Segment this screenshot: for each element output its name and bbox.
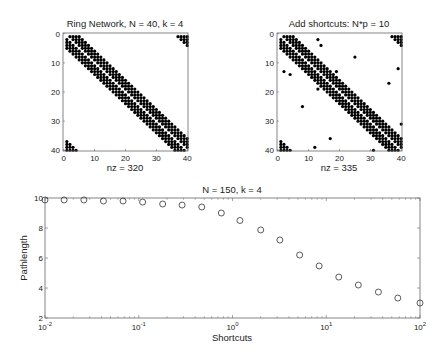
pathlength-scatter-plot: N = 150, k = 4 10-210-1100101102246810 S… xyxy=(18,184,427,343)
nonzero-dot xyxy=(115,73,118,76)
nonzero-dot xyxy=(68,35,71,38)
nonzero-dot xyxy=(375,120,378,123)
nonzero-dot xyxy=(127,102,130,105)
nonzero-dot xyxy=(289,35,292,38)
nonzero-dot xyxy=(378,117,381,120)
nonzero-dot xyxy=(335,85,338,88)
shortcut-dot xyxy=(289,73,292,76)
nonzero-dot xyxy=(78,38,81,41)
nonzero-dot xyxy=(390,128,393,131)
nonzero-dot xyxy=(292,55,295,58)
x-tick-label: 0 xyxy=(276,154,281,163)
nonzero-dot xyxy=(285,44,288,47)
nonzero-dot xyxy=(319,82,322,85)
nonzero-dot xyxy=(298,61,301,64)
nonzero-dot xyxy=(161,122,164,125)
nonzero-dot xyxy=(375,134,378,137)
nonzero-dot xyxy=(313,73,316,76)
nonzero-dot xyxy=(87,53,90,56)
data-point-marker xyxy=(199,204,205,210)
data-point-marker xyxy=(336,274,342,280)
nonzero-dot xyxy=(179,140,182,143)
nonzero-dot xyxy=(344,99,347,102)
y-axis-label: Pathlength xyxy=(18,235,29,280)
nonzero-dot xyxy=(279,44,282,47)
nonzero-dot xyxy=(105,82,108,85)
nonzero-dot xyxy=(130,102,133,105)
nonzero-dot xyxy=(279,47,282,50)
nonzero-dot xyxy=(360,99,363,102)
nonzero-dot xyxy=(292,35,295,38)
nonzero-dot xyxy=(356,117,359,120)
nonzero-dot xyxy=(124,102,127,105)
nonzero-dot xyxy=(161,131,164,134)
y-tick-label: 0 xyxy=(56,30,61,39)
nonzero-dot xyxy=(397,137,400,140)
shortcut-dot xyxy=(316,38,319,41)
nonzero-dot xyxy=(313,58,316,61)
nonzero-dot xyxy=(65,38,68,41)
nonzero-dot xyxy=(356,120,359,123)
nonzero-dot xyxy=(329,85,332,88)
nonzero-dot xyxy=(152,111,155,114)
nonzero-dot xyxy=(158,117,161,120)
nonzero-dot xyxy=(149,105,152,108)
nonzero-dot xyxy=(75,55,78,58)
nonzero-dot xyxy=(71,146,74,149)
y-tick-label: 20 xyxy=(265,88,274,97)
nonzero-dot xyxy=(102,79,105,82)
nonzero-dot xyxy=(124,87,127,90)
nonzero-dot xyxy=(115,87,118,90)
nonzero-dot xyxy=(142,102,145,105)
nonzero-dot xyxy=(87,67,90,70)
nonzero-dot xyxy=(381,128,384,131)
y-tick-label: 30 xyxy=(265,117,274,126)
nonzero-dot xyxy=(78,44,81,47)
nonzero-dot xyxy=(313,79,316,82)
nonzero-dot xyxy=(96,55,99,58)
nonzero-dot xyxy=(115,79,118,82)
nonzero-dot xyxy=(65,143,68,146)
nonzero-dot xyxy=(170,143,173,146)
nonzero-dot xyxy=(93,55,96,58)
nonzero-dot xyxy=(322,70,325,73)
nonzero-dot xyxy=(366,125,369,128)
nonzero-dot xyxy=(170,125,173,128)
nonzero-dot xyxy=(282,50,285,53)
nonzero-dot xyxy=(375,137,378,140)
nonzero-dot xyxy=(384,131,387,134)
nonzero-dot xyxy=(295,38,298,41)
nonzero-dot xyxy=(289,50,292,53)
nonzero-dot xyxy=(319,76,322,79)
nonzero-dot xyxy=(121,96,124,99)
nonzero-dot xyxy=(397,35,400,38)
nonzero-dot xyxy=(341,87,344,90)
nonzero-dot xyxy=(304,50,307,53)
nonzero-dot xyxy=(310,58,313,61)
nonzero-dot xyxy=(322,82,325,85)
nonzero-dot xyxy=(99,61,102,64)
axis-ticks: 001010202030304040 xyxy=(265,30,406,163)
nonzero-dot xyxy=(179,131,182,134)
nonzero-dot xyxy=(108,67,111,70)
nonzero-dot xyxy=(387,146,390,149)
nonzero-dot xyxy=(390,143,393,146)
nonzero-dot xyxy=(307,53,310,56)
nonzero-dot xyxy=(338,93,341,96)
nonzero-dot xyxy=(108,87,111,90)
nonzero-dot xyxy=(112,73,115,76)
nonzero-dot xyxy=(378,122,381,125)
data-point-marker xyxy=(237,218,243,224)
nonzero-dot xyxy=(90,64,93,67)
nonzero-dot xyxy=(289,55,292,58)
nonzero-dot xyxy=(307,70,310,73)
nonzero-dot xyxy=(115,85,118,88)
nonzero-dot xyxy=(393,140,396,143)
y-tick-label: 20 xyxy=(51,88,60,97)
nonzero-dot xyxy=(350,93,353,96)
nonzero-dot xyxy=(149,117,152,120)
nonzero-dot xyxy=(384,125,387,128)
nonzero-dot xyxy=(360,122,363,125)
nonzero-dot xyxy=(170,146,173,149)
nonzero-dot xyxy=(326,82,329,85)
